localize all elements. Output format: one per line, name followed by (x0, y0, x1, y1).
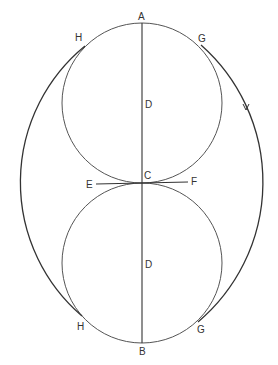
label-c: C (144, 171, 151, 181)
label-a: A (138, 12, 145, 22)
label-b: B (139, 347, 146, 357)
label-g-lower: G (197, 325, 205, 335)
label-d-lower: D (145, 260, 152, 270)
oval-construction-diagram (0, 0, 278, 365)
label-e: E (86, 180, 93, 190)
label-d-upper: D (145, 100, 152, 110)
label-f: F (191, 177, 197, 187)
label-h-lower: H (77, 322, 84, 332)
label-h-upper: H (75, 33, 82, 43)
left-outer-arc (20, 46, 85, 316)
right-outer-arc (198, 45, 263, 322)
label-g-upper: G (198, 34, 206, 44)
